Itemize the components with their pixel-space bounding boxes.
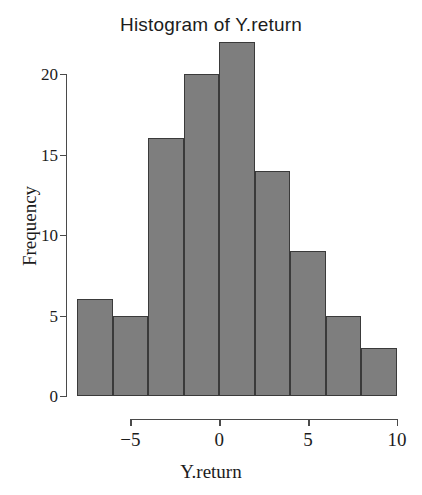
x-axis-tick-label: 5 bbox=[285, 430, 331, 449]
x-axis-line bbox=[130, 419, 397, 420]
x-axis-title: Y.return bbox=[0, 461, 422, 483]
y-axis-tick bbox=[60, 396, 67, 397]
histogram-bar bbox=[255, 171, 291, 396]
x-axis-tick-label: 0 bbox=[196, 430, 242, 449]
x-axis-tick bbox=[130, 419, 131, 426]
y-axis-title: Frequency bbox=[19, 126, 41, 326]
histogram-bar bbox=[361, 348, 397, 396]
y-axis-tick-label: 0 bbox=[24, 388, 58, 405]
x-axis-tick-label: 10 bbox=[374, 430, 420, 449]
histogram-bar bbox=[290, 251, 326, 396]
y-axis-tick bbox=[60, 74, 67, 75]
histogram-bar bbox=[148, 138, 184, 396]
histogram-bar bbox=[219, 42, 255, 396]
y-axis-tick bbox=[60, 316, 67, 317]
histogram-bar bbox=[77, 299, 113, 396]
x-axis-tick bbox=[308, 419, 309, 426]
y-axis-tick bbox=[60, 155, 67, 156]
x-axis-tick bbox=[219, 419, 220, 426]
x-axis-tick bbox=[397, 419, 398, 426]
y-axis-tick-label: 20 bbox=[24, 66, 58, 83]
histogram-bar bbox=[184, 74, 220, 396]
plot-area: 0 5 10 15 20 −5 0 5 10 bbox=[0, 0, 422, 495]
y-axis-tick bbox=[60, 235, 67, 236]
histogram-chart: Histogram of Y.return 0 5 10 15 20 −5 0 … bbox=[0, 0, 422, 495]
histogram-bar bbox=[113, 316, 149, 397]
x-axis-tick-label: −5 bbox=[107, 430, 153, 449]
histogram-bar bbox=[326, 316, 362, 397]
